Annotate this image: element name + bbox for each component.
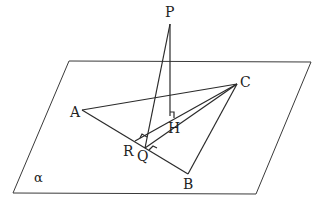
label-R: R	[123, 143, 134, 159]
label-H: H	[168, 120, 180, 136]
geometry-diagram: P A B C H Q R α	[0, 0, 319, 204]
label-A: A	[69, 104, 81, 120]
plane-alpha	[13, 61, 311, 194]
label-alpha: α	[34, 170, 43, 185]
segment-PQ	[145, 24, 170, 148]
label-Q: Q	[137, 148, 148, 164]
label-P: P	[165, 4, 174, 20]
segment-QC	[145, 84, 237, 148]
right-angle-mark-Q	[149, 146, 157, 150]
right-angle-mark-H	[170, 112, 174, 118]
label-C: C	[240, 74, 251, 90]
label-B: B	[183, 176, 193, 192]
